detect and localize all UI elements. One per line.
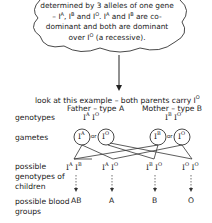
child-genotype-4: IO IO — [182, 163, 199, 172]
label-genotypes: genotypes — [15, 113, 70, 123]
mother-heading: Mother – type B — [142, 104, 202, 113]
label-blood-groups: possible blood groups — [15, 197, 70, 217]
child-genotype-3: IB IO — [146, 163, 162, 172]
mother-genotype: IB IO — [165, 113, 181, 122]
gamete-2: IO — [102, 132, 109, 141]
blood-group-1: AB — [71, 196, 81, 205]
father-genotype: IA IO — [83, 113, 99, 122]
label-gametes: gametes — [15, 133, 70, 143]
blood-group-2: A — [109, 196, 114, 205]
blood-group-4: O — [188, 196, 194, 205]
gamete-1: IA — [78, 132, 85, 141]
blood-group-3: B — [152, 196, 157, 205]
child-genotype-1: IA IB — [66, 163, 82, 172]
or-label-1: or — [91, 133, 97, 139]
cloud-text: determined by 3 alleles of one gene – IA… — [40, 1, 174, 43]
gamete-4: IO — [178, 132, 185, 141]
or-label-2: or — [167, 133, 173, 139]
label-children: possible genotypes of children — [15, 162, 70, 192]
gamete-3: IB — [154, 132, 161, 141]
child-genotype-2: IA IO — [102, 163, 118, 172]
